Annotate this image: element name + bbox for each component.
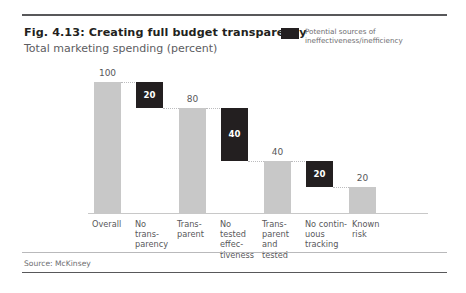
x-axis-baseline — [88, 213, 428, 214]
chart-plot-area: 100 20 80 40 40 20 20 Overall No trans- … — [0, 0, 466, 293]
bar-value-transparent: 80 — [179, 94, 206, 104]
bar-value-no-continuous-tracking: 20 — [306, 169, 333, 179]
bottom-rule — [22, 272, 447, 273]
bar-value-overall: 100 — [94, 68, 121, 78]
x-axis-label-overall: Overall — [92, 219, 134, 229]
connector-line — [333, 187, 349, 188]
bar-value-transparent-and-tested: 40 — [264, 147, 291, 157]
connector-line — [121, 82, 137, 83]
x-axis-label-known-risk: Known risk — [352, 219, 394, 239]
bar-value-no-tested-effectiveness: 40 — [221, 129, 248, 139]
source-divider — [22, 252, 447, 253]
connector-line — [291, 161, 307, 162]
bar-overall[interactable] — [94, 82, 121, 213]
connector-line — [248, 161, 264, 162]
bar-known-risk[interactable] — [349, 187, 376, 213]
connector-line — [163, 108, 179, 109]
x-axis-label-no-transparency: No trans- parency — [135, 219, 177, 250]
source-note: Source: McKinsey — [24, 259, 91, 268]
x-axis-label-no-tested-effectiveness: No tested effec- tiveness — [220, 219, 262, 260]
x-axis-label-transparent-and-tested: Trans- parent and tested — [262, 219, 304, 260]
bar-value-no-transparency: 20 — [136, 90, 163, 100]
bar-transparent[interactable] — [179, 108, 206, 213]
figure-container: Fig. 4.13: Creating full budget transpar… — [0, 0, 466, 293]
x-axis-label-transparent: Trans- parent — [177, 219, 219, 239]
x-axis-label-no-continuous-tracking: No contin- uous tracking — [305, 219, 351, 250]
connector-line — [206, 108, 222, 109]
bar-transparent-and-tested[interactable] — [264, 161, 291, 213]
bar-value-known-risk: 20 — [349, 173, 376, 183]
